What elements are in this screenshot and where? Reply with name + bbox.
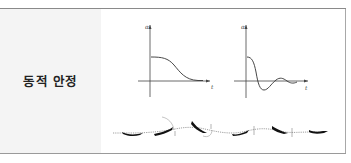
x-axis-arrow-icon [206,80,210,83]
aircraft-icon [154,127,173,136]
plot-damped-oscillation: α t [234,23,308,98]
decay-curve [151,57,203,81]
y-axis-label: α [145,23,149,30]
aircraft-icon [309,130,328,134]
aircraft-icon [191,121,207,133]
oscillation-curve [247,57,297,90]
y-axis-label: α [241,23,245,30]
plot-monotonic-decay: α t [138,23,214,97]
dashed-flight-path [113,127,325,133]
aircraft-icon [272,126,288,134]
flight-path-illustration [113,117,328,137]
x-axis-arrow-icon [304,80,308,83]
x-axis-label: t [305,84,308,91]
x-axis-label: t [211,83,214,90]
diagram-canvas: α t α t [0,0,351,163]
pitch-arc-icon [203,130,212,137]
